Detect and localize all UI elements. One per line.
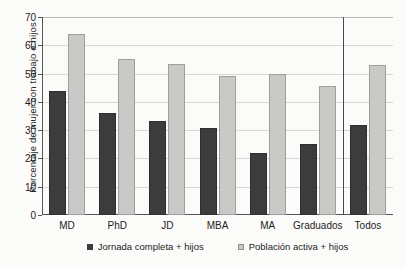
bar bbox=[149, 121, 166, 215]
bar-group: MBA bbox=[200, 17, 236, 215]
bar bbox=[350, 125, 367, 215]
chart-figure: Porcentaje de mujer con trabajo e hijos … bbox=[0, 0, 406, 268]
y-axis-tick-label: 70 bbox=[25, 12, 36, 23]
y-axis-tick-label: 20 bbox=[25, 153, 36, 164]
legend-item: Jornada completa + hijos bbox=[87, 241, 204, 252]
legend-item: Población activa + hijos bbox=[238, 241, 349, 252]
chart-legend: Jornada completa + hijosPoblación activa… bbox=[42, 241, 393, 252]
legend-label: Población activa + hijos bbox=[249, 241, 349, 252]
bar bbox=[200, 128, 217, 215]
bar bbox=[118, 59, 135, 215]
legend-label: Jornada completa + hijos bbox=[98, 241, 204, 252]
bar bbox=[219, 76, 236, 215]
x-axis-tick-label: Todos bbox=[355, 220, 382, 231]
bar bbox=[250, 153, 267, 216]
plot-frame: 010203040506070MDPhDJDMBAMAGraduadosTodo… bbox=[42, 17, 393, 215]
bar bbox=[269, 74, 286, 215]
y-axis-tick-label: 40 bbox=[25, 96, 36, 107]
y-axis-tick-mark bbox=[38, 215, 42, 216]
y-axis-tick-label: 60 bbox=[25, 40, 36, 51]
bar bbox=[300, 144, 317, 215]
bar-group: JD bbox=[149, 17, 185, 215]
bar-group: PhD bbox=[99, 17, 135, 215]
bar-group: Graduados bbox=[300, 17, 336, 215]
legend-swatch-icon bbox=[238, 244, 244, 250]
y-axis-tick-label: 10 bbox=[25, 181, 36, 192]
x-axis-tick-label: MBA bbox=[207, 220, 229, 231]
group-separator-line bbox=[343, 17, 344, 215]
bar-group: MD bbox=[49, 17, 85, 215]
y-axis-tick-label: 30 bbox=[25, 125, 36, 136]
x-axis-tick-label: MD bbox=[59, 220, 75, 231]
bar bbox=[319, 86, 336, 215]
bar bbox=[369, 65, 386, 215]
x-axis-tick-label: JD bbox=[161, 220, 173, 231]
x-axis-tick-label: PhD bbox=[107, 220, 126, 231]
bar bbox=[99, 113, 116, 215]
y-axis-line bbox=[42, 17, 43, 215]
bar bbox=[49, 91, 66, 215]
bar bbox=[168, 64, 185, 215]
plot-area: 010203040506070MDPhDJDMBAMAGraduadosTodo… bbox=[42, 17, 393, 215]
bar bbox=[68, 34, 85, 215]
y-axis-tick-label: 50 bbox=[25, 68, 36, 79]
bar-group: MA bbox=[250, 17, 286, 215]
x-axis-tick-label: Graduados bbox=[293, 220, 342, 231]
y-axis-tick-label: 0 bbox=[30, 210, 36, 221]
x-axis-tick-label: MA bbox=[260, 220, 275, 231]
bar-group: Todos bbox=[350, 17, 386, 215]
legend-swatch-icon bbox=[87, 244, 93, 250]
